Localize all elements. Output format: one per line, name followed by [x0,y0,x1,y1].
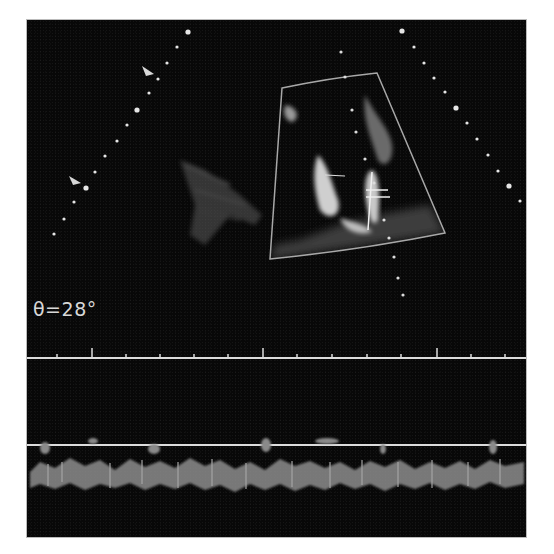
arrow-marker-icon [69,66,154,185]
scan-overlay [0,0,554,554]
doppler-sector-content [270,95,445,259]
spectral-doppler-band [30,458,524,492]
angle-label: θ=28° [33,298,97,320]
depth-marker-dots-right [399,28,521,202]
figure-caption [0,544,554,554]
time-axis [27,348,526,358]
tissue-echo [180,160,262,245]
depth-marker-dots-left [52,29,190,235]
